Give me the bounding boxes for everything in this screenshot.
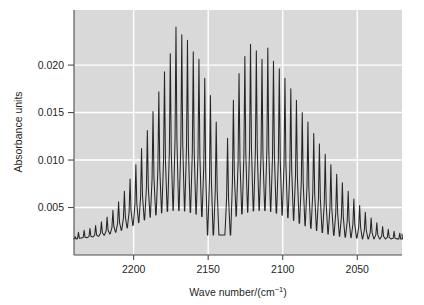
x-tick-label: 2200 bbox=[122, 263, 146, 275]
x-tick-label: 2100 bbox=[271, 263, 295, 275]
y-axis-title: Absorbance units bbox=[12, 91, 24, 172]
x-tick-label: 2150 bbox=[197, 263, 221, 275]
y-tick-label: 0.010 bbox=[38, 154, 64, 166]
y-tick-label: 0.005 bbox=[38, 201, 64, 213]
y-tick-label: 0.020 bbox=[38, 59, 64, 71]
spectrum-chart: 2200215021002050 0.0050.0100.0150.020 Wa… bbox=[0, 0, 424, 305]
spectrum-figure: 2200215021002050 0.0050.0100.0150.020 Wa… bbox=[0, 0, 424, 305]
x-tick-label: 2050 bbox=[346, 263, 370, 275]
x-axis-title: Wave number/(cm−1) bbox=[189, 285, 286, 298]
y-tick-label: 0.015 bbox=[38, 106, 64, 118]
